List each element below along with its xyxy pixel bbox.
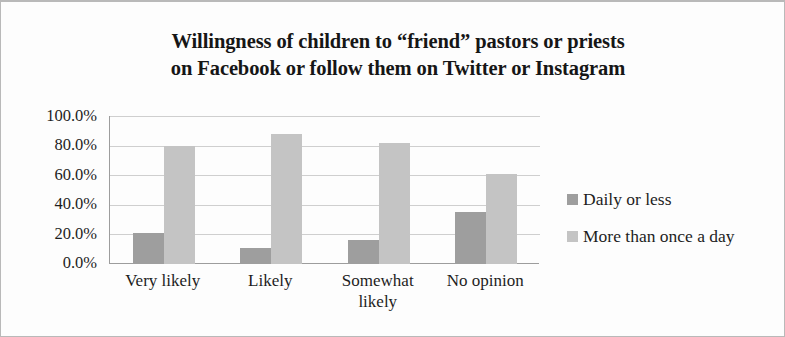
y-axis-tick-label: 80.0% [54,137,97,153]
legend-swatch-icon [567,231,578,242]
legend-label: More than once a day [583,227,735,245]
legend-swatch-icon [567,194,578,205]
bar-daily-or-less-no-opinion [455,212,486,264]
x-axis-label-very-likely: Very likely [109,270,216,312]
y-axis-tick-label: 100.0% [46,108,97,124]
y-axis-tick-label: 20.0% [54,226,97,242]
x-axis-category-labels: Very likely Likely Somewhat likely No op… [109,270,539,312]
y-axis-tick-label: 40.0% [54,196,97,212]
chart-title-line-1: Willingness of children to “friend” past… [85,28,711,55]
bar-more-than-once-a-day-no-opinion [486,174,517,264]
legend-item-daily-or-less: Daily or less [567,190,777,208]
bar-group-no-opinion [433,116,540,264]
bar-more-than-once-a-day-very-likely [164,146,195,264]
legend-item-more-than-once-a-day: More than once a day [567,227,777,245]
chart-legend: Daily or less More than once a day [567,190,777,264]
y-axis-tick-label: 60.0% [54,167,97,183]
bar-daily-or-less-very-likely [133,233,164,264]
bar-more-than-once-a-day-somewhat-likely [379,143,410,264]
chart-figure: Willingness of children to “friend” past… [0,0,785,337]
bar-groups [110,116,540,264]
bar-daily-or-less-likely [240,248,271,264]
y-axis-tick-labels: 100.0% 80.0% 60.0% 40.0% 20.0% 0.0% [9,108,103,272]
x-axis-label-likely: Likely [217,270,324,312]
legend-label: Daily or less [583,190,671,208]
chart-title: Willingness of children to “friend” past… [85,28,711,82]
y-axis-tick-label: 0.0% [63,255,97,271]
bar-group-somewhat-likely [325,116,432,264]
plot-area [109,116,539,264]
bar-group-very-likely [110,116,217,264]
x-axis-label-somewhat-likely: Somewhat likely [324,270,431,312]
bar-group-likely [218,116,325,264]
x-axis-label-no-opinion: No opinion [432,270,539,312]
bar-daily-or-less-somewhat-likely [348,240,379,264]
bar-more-than-once-a-day-likely [271,134,302,264]
chart-title-line-2: on Facebook or follow them on Twitter or… [85,55,711,82]
